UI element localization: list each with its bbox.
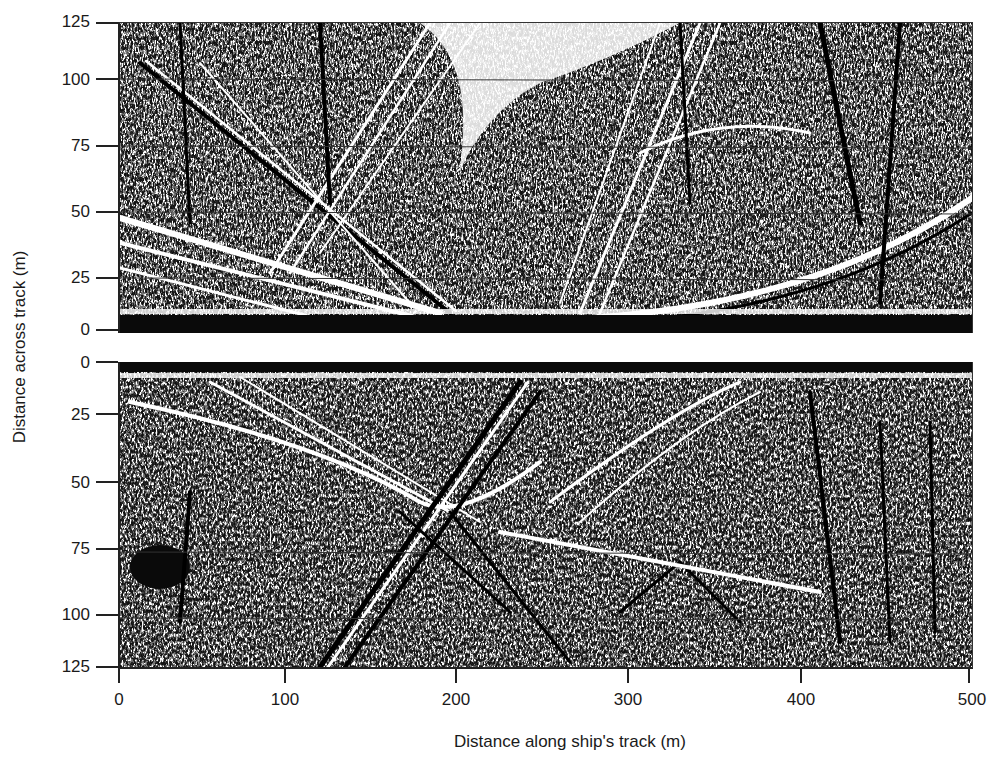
y-tick-label: 50 xyxy=(10,474,90,492)
y-tick xyxy=(96,666,118,668)
y-tick xyxy=(96,548,118,550)
x-tick-label: 400 xyxy=(771,691,831,709)
x-tick xyxy=(284,667,286,683)
y-tick-label: 50 xyxy=(10,203,90,221)
sonar-panel-upper xyxy=(118,22,973,333)
y-tick-label: 75 xyxy=(10,540,90,558)
x-tick xyxy=(118,667,120,683)
y-tick xyxy=(96,277,118,279)
y-tick-label: 75 xyxy=(10,137,90,155)
y-tick xyxy=(96,413,118,415)
y-tick xyxy=(96,211,118,213)
sonar-image-lower xyxy=(120,362,972,667)
x-tick xyxy=(455,667,457,683)
y-tick xyxy=(96,329,118,331)
y-tick xyxy=(96,22,118,24)
x-tick-label: 500 xyxy=(942,691,1002,709)
y-tick-label: 0 xyxy=(10,354,90,372)
y-tick-label: 125 xyxy=(10,658,90,676)
y-tick-label: 25 xyxy=(10,269,90,287)
x-tick-label: 300 xyxy=(598,691,658,709)
x-tick-label: 100 xyxy=(255,691,315,709)
y-tick-label: 0 xyxy=(10,321,90,339)
y-tick xyxy=(96,481,118,483)
x-tick xyxy=(627,667,629,683)
y-axis-title: Distance across track (m) xyxy=(10,167,30,527)
x-axis-title: Distance along ship's track (m) xyxy=(300,732,840,752)
x-tick-label: 200 xyxy=(426,691,486,709)
x-tick-label: 0 xyxy=(89,691,149,709)
y-tick xyxy=(96,361,118,363)
y-tick xyxy=(96,78,118,80)
y-tick-label: 25 xyxy=(10,406,90,424)
x-tick xyxy=(968,667,970,683)
y-tick-label: 100 xyxy=(10,606,90,624)
sonar-panel-lower xyxy=(118,362,973,669)
y-tick xyxy=(96,614,118,616)
sonar-image-upper xyxy=(120,23,972,333)
y-tick xyxy=(96,145,118,147)
y-tick-label: 125 xyxy=(10,13,90,31)
y-tick-label: 100 xyxy=(10,71,90,89)
x-tick xyxy=(800,667,802,683)
